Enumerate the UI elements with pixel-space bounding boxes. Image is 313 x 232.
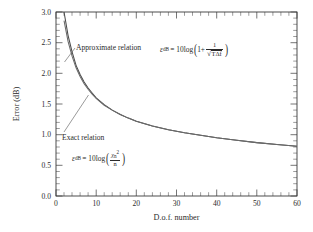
x-tick-label: 40 xyxy=(213,199,221,208)
radicand-delta-f: Δf xyxy=(215,50,221,57)
chart-figure: 0.0 0.5 1.0 1.5 2.0 2.5 3.0 xyxy=(0,0,313,232)
y-tick-label: 1.5 xyxy=(42,100,52,109)
epsilon-subscript: dB xyxy=(75,156,81,161)
y-tick-labels: 0.0 0.5 1.0 1.5 2.0 2.5 3.0 xyxy=(42,8,52,201)
x-tick-label: 10 xyxy=(92,199,100,208)
y-tick-label: 3.0 xyxy=(42,8,52,17)
fraction-denominator: √ TΔf xyxy=(206,50,223,58)
x-tick-label: 20 xyxy=(133,199,141,208)
left-paren-icon: ( xyxy=(194,44,197,56)
radicand: TΔf xyxy=(211,50,222,57)
leader-line-exact xyxy=(64,95,89,132)
x-tick-labels: 0 10 20 30 40 50 60 xyxy=(54,199,301,208)
fraction-one-over-sqrt: 1 √ TΔf xyxy=(206,42,223,58)
curve-exact-relation xyxy=(64,21,297,147)
equals-ten-log: = 10log xyxy=(170,46,193,53)
fraction-numerator: χn2 xyxy=(110,150,120,160)
x-tick-label: 30 xyxy=(173,199,181,208)
right-paren-icon: ) xyxy=(225,44,228,56)
left-paren-icon: ( xyxy=(106,153,109,165)
chi-superscript: 2 xyxy=(116,149,119,155)
x-axis-title: D.o.f. number xyxy=(154,213,200,222)
annotation-label-exact-relation: Exact relation xyxy=(62,134,104,142)
y-tick-label: 1.0 xyxy=(42,130,52,139)
y-tick-label: 2.0 xyxy=(42,69,52,78)
equals-ten-log: = 10log xyxy=(82,155,105,162)
one-plus-term: 1+ xyxy=(197,46,205,53)
right-paren-icon: ) xyxy=(121,153,124,165)
curve-approximate-relation xyxy=(64,12,297,146)
plot-canvas: 0.0 0.5 1.0 1.5 2.0 2.5 3.0 xyxy=(0,0,313,232)
x-tick-label: 0 xyxy=(54,199,58,208)
y-axis-title: Error (dB) xyxy=(12,87,21,122)
formula-exact-relation: εdB = 10log ( χn2 n ) xyxy=(72,150,125,167)
x-axis-ticks xyxy=(56,12,297,196)
plot-frame xyxy=(56,12,297,196)
sqrt-group: √ TΔf xyxy=(207,50,222,58)
y-axis-ticks xyxy=(56,12,297,196)
y-tick-label: 0.5 xyxy=(42,161,52,170)
fraction-denominator: n xyxy=(112,161,117,168)
epsilon-subscript: dB xyxy=(163,47,169,52)
x-tick-label: 50 xyxy=(253,199,261,208)
fraction-numerator: 1 xyxy=(212,42,217,49)
y-tick-label: 2.5 xyxy=(42,38,52,47)
fraction-chi-over-n: χn2 n xyxy=(110,150,120,167)
y-tick-label: 0.0 xyxy=(42,192,52,201)
x-tick-label: 60 xyxy=(293,199,301,208)
formula-approximate-relation: εdB = 10log ( 1+ 1 √ TΔf ) xyxy=(160,42,228,58)
annotation-label-approximate-relation: Approximate relation xyxy=(76,44,141,52)
